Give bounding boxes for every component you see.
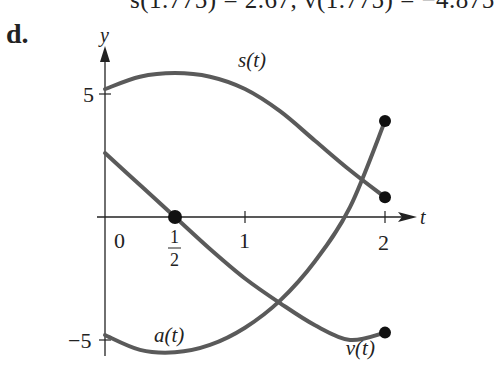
a-endpoint-dot [379, 115, 391, 127]
v-endpoint-dot [379, 327, 391, 339]
axes [97, 46, 417, 356]
svg-text:2: 2 [170, 250, 179, 270]
y-tick-label-5: 5 [83, 82, 94, 107]
v-zero-dot [168, 210, 182, 224]
y-axis-label: y [98, 24, 109, 47]
a-curve-label: a(t) [154, 323, 184, 347]
svg-text:1: 1 [170, 227, 179, 247]
s-curve [105, 73, 385, 197]
y-axis-arrow-icon [100, 46, 110, 62]
t-tick-label-2: 2 [378, 230, 389, 255]
t-tick-label-0: 0 [114, 228, 125, 253]
t-tick-label-half: 1 2 [168, 227, 181, 270]
s-curve-label: s(t) [238, 48, 266, 72]
t-tick-label-1: 1 [239, 228, 250, 253]
s-endpoint-dot [379, 191, 391, 203]
y-tick-label-neg5: −5 [68, 328, 91, 353]
t-axis-label: t [420, 206, 426, 228]
v-curve-label: v(t) [346, 336, 375, 360]
